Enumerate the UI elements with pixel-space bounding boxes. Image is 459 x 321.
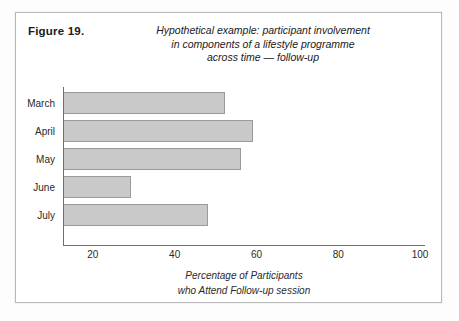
x-tick-label: 20 (87, 249, 98, 260)
x-tick-label: 100 (412, 249, 429, 260)
x-tick-label: 80 (333, 249, 344, 260)
x-axis-line (63, 245, 425, 246)
bar-june[interactable] (64, 176, 131, 198)
bar-april[interactable] (64, 120, 253, 142)
x-axis-caption-line-1: Percentage of Participants (63, 268, 425, 283)
figure-frame: Figure 19. Hypothetical example: partici… (15, 12, 442, 303)
bar-chart-plot-area: March April May June July 20 40 60 (16, 13, 443, 304)
bar-row: April (64, 120, 253, 142)
x-tick-label: 40 (169, 249, 180, 260)
x-axis-caption-line-2: who Attend Follow-up session (63, 283, 425, 298)
category-label: March (27, 98, 55, 109)
bar-row: June (64, 176, 131, 198)
bar-row: July (64, 204, 208, 226)
category-label: July (37, 210, 55, 221)
bar-row: May (64, 148, 241, 170)
x-axis-caption: Percentage of Participants who Attend Fo… (63, 268, 425, 298)
bar-july[interactable] (64, 204, 208, 226)
bar-row: March (64, 92, 225, 114)
bar-march[interactable] (64, 92, 225, 114)
x-tick-label: 60 (251, 249, 262, 260)
bar-may[interactable] (64, 148, 241, 170)
scanned-page: Figure 19. Hypothetical example: partici… (0, 0, 459, 321)
category-label: June (33, 182, 55, 193)
category-label: May (36, 154, 55, 165)
category-label: April (35, 126, 55, 137)
